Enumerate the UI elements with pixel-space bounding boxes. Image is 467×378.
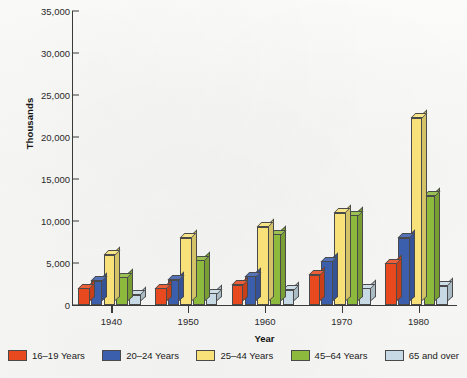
x-tick-mark — [188, 306, 189, 313]
bar-front-face — [385, 263, 397, 305]
legend-swatch — [196, 350, 215, 361]
legend-item[interactable]: 16–19 Years — [8, 350, 85, 361]
bar-side-face — [281, 226, 286, 301]
legend-item[interactable]: 65 and over — [385, 350, 459, 361]
y-axis-ticks: 05,00010,00015,00020,00025,00030,00035,0… — [12, 0, 70, 378]
bar-side-face — [269, 219, 274, 301]
legend-swatch — [8, 350, 27, 361]
bar — [78, 288, 90, 305]
y-tick-label: 0 — [16, 300, 70, 311]
bar-side-face — [435, 188, 440, 301]
x-axis-title: Year — [72, 333, 457, 344]
legend-label: 45–64 Years — [315, 350, 368, 361]
x-tick-mark — [265, 306, 266, 313]
x-tick-label: 1960 — [254, 316, 275, 327]
legend-swatch — [291, 350, 310, 361]
legend-label: 20–24 Years — [126, 350, 179, 361]
bar-front-face — [309, 275, 321, 305]
legend-label: 25–44 Years — [220, 350, 273, 361]
legend-item[interactable]: 45–64 Years — [291, 350, 368, 361]
bar-front-face — [78, 288, 90, 305]
legend-item[interactable]: 20–24 Years — [102, 350, 179, 361]
bar-side-face — [141, 287, 146, 301]
bar — [385, 263, 397, 305]
x-tick-label: 1980 — [408, 316, 429, 327]
x-tick-mark — [111, 306, 112, 313]
x-tick-label: 1950 — [178, 316, 199, 327]
y-tick-label: 5,000 — [16, 258, 70, 269]
y-tick-label: 25,000 — [16, 90, 70, 101]
x-tick-label: 1940 — [101, 316, 122, 327]
bar-side-face — [217, 285, 222, 301]
bar-chart: Thousands 05,00010,00015,00020,00025,000… — [0, 0, 467, 378]
bar-side-face — [422, 110, 427, 301]
plot-area — [73, 11, 457, 305]
y-tick-label: 30,000 — [16, 48, 70, 59]
y-tick-label: 10,000 — [16, 216, 70, 227]
legend-item[interactable]: 25–44 Years — [196, 350, 273, 361]
bar-side-face — [115, 247, 120, 301]
legend-swatch — [102, 350, 121, 361]
legend-label: 16–19 Years — [32, 350, 85, 361]
bar-side-face — [410, 230, 415, 301]
bar-front-face — [155, 288, 167, 305]
y-tick-label: 35,000 — [16, 6, 70, 17]
y-tick-label: 20,000 — [16, 132, 70, 143]
chart-legend: 16–19 Years20–24 Years25–44 Years45–64 Y… — [8, 350, 459, 361]
legend-swatch — [385, 350, 404, 361]
bar-side-face — [358, 207, 363, 301]
bar — [155, 288, 167, 305]
legend-label: 65 and over — [409, 350, 459, 361]
x-tick-mark — [419, 306, 420, 313]
x-tick-mark — [342, 306, 343, 313]
bar-side-face — [205, 252, 210, 301]
bar — [309, 275, 321, 305]
bar — [232, 285, 244, 305]
bar-front-face — [232, 285, 244, 305]
bar-side-face — [346, 205, 351, 301]
x-tick-label: 1970 — [331, 316, 352, 327]
bar-side-face — [192, 230, 197, 301]
y-tick-label: 15,000 — [16, 174, 70, 185]
